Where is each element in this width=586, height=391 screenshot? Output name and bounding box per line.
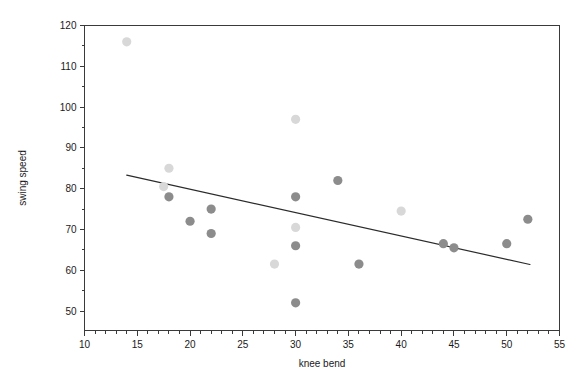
data-point bbox=[270, 259, 279, 268]
data-point bbox=[159, 182, 168, 191]
data-point bbox=[439, 239, 448, 248]
data-point bbox=[164, 192, 173, 201]
y-axis-tick-label: 80 bbox=[65, 183, 77, 194]
data-point bbox=[207, 204, 216, 213]
y-axis-tick-label: 50 bbox=[65, 306, 77, 317]
y-axis-title: swing speed bbox=[17, 150, 28, 206]
data-point bbox=[185, 217, 194, 226]
data-point bbox=[291, 241, 300, 250]
y-axis-tick-label: 110 bbox=[61, 61, 77, 72]
data-point bbox=[207, 229, 216, 238]
data-point bbox=[291, 298, 300, 307]
x-axis-tick-label: 30 bbox=[290, 339, 302, 350]
data-point bbox=[291, 192, 300, 201]
scatter-plot-figure: 506070809010011012010152025303540455055k… bbox=[0, 0, 586, 391]
data-point bbox=[164, 164, 173, 173]
y-axis-tick-label: 60 bbox=[65, 265, 77, 276]
x-axis-tick-label: 55 bbox=[554, 339, 566, 350]
x-axis-tick-label: 45 bbox=[448, 339, 460, 350]
data-point bbox=[449, 243, 458, 252]
data-point bbox=[502, 239, 511, 248]
y-axis-tick-label: 120 bbox=[60, 20, 77, 31]
data-point-group bbox=[122, 37, 532, 307]
plot-frame bbox=[85, 26, 560, 331]
data-point bbox=[354, 259, 363, 268]
x-axis-tick-label: 25 bbox=[237, 339, 249, 350]
y-axis-tick-label: 100 bbox=[60, 102, 77, 113]
x-axis-tick-label: 40 bbox=[396, 339, 408, 350]
data-point bbox=[333, 176, 342, 185]
x-axis-tick-label: 15 bbox=[132, 339, 144, 350]
data-point bbox=[523, 215, 532, 224]
y-axis-tick-label: 90 bbox=[65, 142, 77, 153]
plot-canvas: 506070809010011012010152025303540455055k… bbox=[0, 0, 586, 391]
x-axis-tick-label: 50 bbox=[501, 339, 513, 350]
data-point bbox=[397, 206, 406, 215]
data-point bbox=[122, 37, 131, 46]
x-axis-tick-label: 10 bbox=[79, 339, 91, 350]
x-axis-tick-label: 35 bbox=[343, 339, 355, 350]
data-point bbox=[291, 115, 300, 124]
x-axis-tick-label: 20 bbox=[184, 339, 196, 350]
data-point bbox=[291, 223, 300, 232]
y-axis-tick-label: 70 bbox=[65, 224, 77, 235]
x-axis-title: knee bend bbox=[299, 358, 346, 369]
